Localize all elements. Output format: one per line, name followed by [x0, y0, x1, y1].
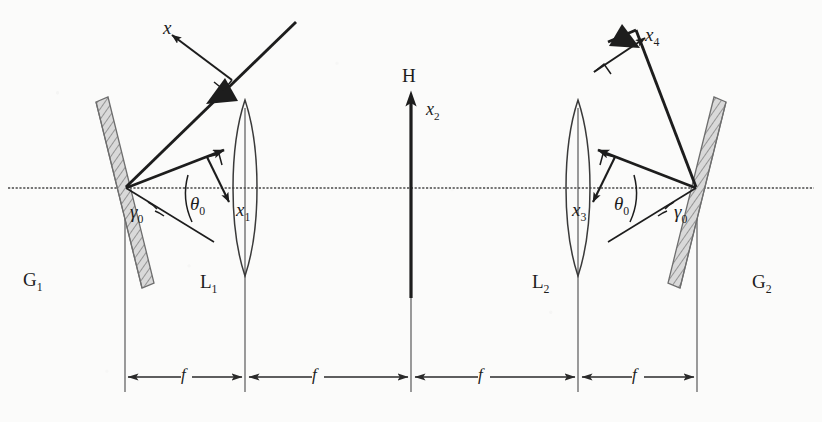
angle-arc-gamma-right [658, 211, 667, 216]
incident-beam-left [126, 22, 296, 187]
axis-vector-x3 [593, 154, 615, 202]
angle-arc-gamma-left [155, 211, 164, 216]
axis-label-x4: x4 [645, 25, 659, 49]
angle-arc-theta-right [630, 175, 636, 222]
angle-label-gamma-left: γ0 [130, 202, 143, 226]
axis-label-x2: x2 [426, 100, 440, 122]
angle-label-theta-right: θ0 [614, 194, 629, 218]
dimension-label-f-3: f [478, 366, 483, 383]
axis-label-x1: x1 [236, 200, 250, 224]
axis-label-x-top-left: x [163, 18, 171, 37]
lens-label-l1: L1 [200, 272, 218, 296]
diagram-canvas [0, 0, 822, 422]
axis-vector-x1 [207, 154, 229, 202]
dimension-label-f-2: f [312, 366, 317, 383]
lens-label-l2: L2 [532, 272, 550, 296]
dimension-label-f-4: f [632, 366, 637, 383]
grating-label-g2: G2 [752, 272, 772, 296]
axis-label-x3: x3 [572, 200, 586, 224]
hologram-label: H [402, 66, 416, 85]
grating-label-g1: G1 [23, 270, 43, 294]
angle-label-gamma-right: γ0 [674, 202, 687, 226]
optical-diagram-figure: x x1 H x2 x3 x4 G1 G2 L1 L2 γ0 θ0 θ0 γ0 … [0, 0, 822, 422]
dimension-label-f-1: f [181, 366, 186, 383]
angle-label-theta-left: θ0 [190, 194, 205, 218]
